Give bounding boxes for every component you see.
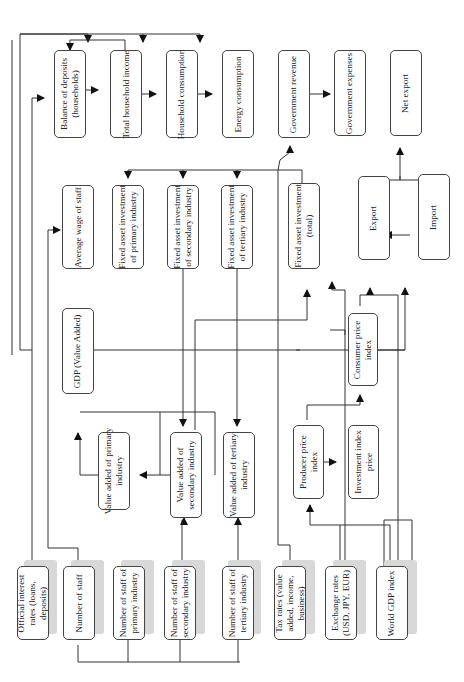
- node-import: Import: [418, 174, 450, 260]
- node-label: Government expenses: [345, 52, 356, 133]
- node-fai-secondary: Fixed asset investment of secondary indu…: [167, 185, 199, 269]
- node-va-secondary: Value added of secondary industry: [170, 432, 202, 518]
- node-label: Number of staff of tertiary industry: [227, 569, 249, 637]
- node-avg-wage: Average wage of staff: [62, 185, 94, 269]
- node-balance-deposits: Balance of deposits (households): [54, 50, 86, 138]
- node-label: GDP (Value Added): [73, 314, 84, 388]
- node-label: Official interest rates (loans, deposits…: [17, 574, 50, 632]
- node-export: Export: [358, 176, 390, 260]
- diagram-canvas: Official interest rates (loans, deposits…: [0, 0, 464, 682]
- node-label: Value added of secondary industry: [175, 440, 197, 510]
- node-label: Energy consumption: [233, 56, 244, 132]
- node-label: Net export: [401, 73, 412, 112]
- node-label: Total household income: [121, 50, 132, 138]
- node-label: Average wage of staff: [73, 187, 84, 268]
- node-household-consumption: Household consumption: [166, 50, 198, 138]
- node-gdp: GDP (Value Added): [62, 308, 94, 394]
- node-investment-price: Investment index price: [348, 425, 379, 499]
- node-label: Number of staff of primary industry: [118, 569, 140, 637]
- node-label: Household consumption: [177, 49, 188, 139]
- node-label: Number of staff of secondary industry: [169, 568, 191, 638]
- node-number-of-staff: Number of staff: [63, 566, 95, 640]
- node-staff-tertiary: Number of staff of tertiary industry: [222, 566, 254, 640]
- node-label: Investment index price: [353, 430, 375, 494]
- node-fai-primary: Fixed asset investment of primary indust…: [112, 185, 144, 269]
- node-tax-rates: Tax rates (value added, income, business…: [274, 566, 306, 640]
- node-exchange-rates: Exchange rates (USD, JPY, EUR): [325, 566, 357, 640]
- node-label: Number of staff: [74, 574, 85, 633]
- node-label: Tax rates (value added, income, business…: [274, 574, 307, 633]
- node-staff-primary: Number of staff of primary industry: [113, 566, 145, 640]
- node-label: Fixed asset investment of primary indust…: [117, 185, 139, 269]
- node-gov-revenue: Government revenue: [278, 50, 310, 138]
- node-label: Balance of deposits (households): [59, 58, 81, 130]
- node-gov-expenses: Government expenses: [334, 50, 366, 136]
- node-fai-total: Fixed asset investment (total): [288, 183, 320, 269]
- node-label: Import: [428, 204, 439, 229]
- node-label: Value added of primary industry: [103, 428, 125, 514]
- node-label: Exchange rates (USD, JPY, EUR): [330, 570, 352, 636]
- node-label: Consumer price index: [352, 320, 374, 378]
- node-label: Fixed asset investment (total): [293, 184, 315, 268]
- node-label: Government revenue: [289, 55, 300, 132]
- node-fai-tertiary: Fixed asset investment of tertiary indus…: [221, 185, 253, 269]
- node-energy-consumption: Energy consumption: [222, 50, 254, 138]
- node-label: Value added of tertiary industry: [228, 433, 250, 517]
- node-label: World GDP index: [387, 570, 398, 636]
- node-va-tertiary: Value added of tertiary industry: [223, 432, 255, 518]
- node-label: Fixed asset investment of secondary indu…: [172, 185, 194, 269]
- node-household-income: Total household income: [110, 50, 142, 138]
- node-official-interest-rates: Official interest rates (loans, deposits…: [17, 566, 49, 640]
- node-net-export: Net export: [390, 50, 422, 136]
- node-label: Producer price index: [298, 435, 320, 489]
- node-world-gdp: World GDP index: [376, 566, 408, 640]
- node-va-primary: Value added of primary industry: [98, 432, 130, 510]
- node-consumer-price: Consumer price index: [348, 313, 378, 386]
- node-staff-secondary: Number of staff of secondary industry: [164, 566, 196, 640]
- node-producer-price: Producer price index: [293, 425, 324, 499]
- node-label: Fixed asset investment of tertiary indus…: [226, 185, 248, 269]
- node-label: Export: [368, 205, 379, 230]
